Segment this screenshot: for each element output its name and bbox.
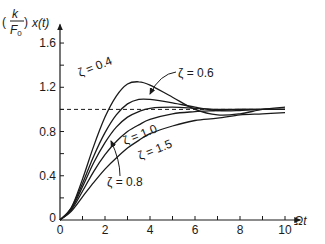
y-tick-label: 0.4 [39, 169, 56, 183]
x-axis-label: Ωt [294, 214, 307, 228]
series-annotation: ζ = 0.4 [76, 53, 115, 79]
y-label-denominator: F0 [10, 23, 22, 38]
x-tick-label: 0 [57, 223, 64, 237]
series-annotation: ζ = 0.8 [107, 175, 143, 189]
series-annotation: ζ = 0.6 [178, 66, 214, 80]
y-tick-label: 0.8 [39, 125, 56, 139]
x-tick-label: 6 [192, 223, 199, 237]
annotation-arrow [150, 72, 176, 94]
axes [60, 24, 300, 220]
y-tick-label: 1.6 [39, 36, 56, 50]
series-group [60, 82, 285, 220]
y-axis-label: ( k F0 ) x(t) [2, 7, 49, 38]
y-tick-label: 0 [49, 211, 56, 225]
x-tick-label: 10 [278, 223, 292, 237]
y-tick-label: 1.2 [39, 80, 56, 94]
series-line-1-5 [60, 113, 285, 220]
y-label-paren-open: ( [2, 15, 6, 29]
x-tick-label: 4 [147, 223, 154, 237]
x-tick-label: 2 [102, 223, 109, 237]
step-response-chart: ( k F0 ) x(t) 024681000.40.81.21.6 ζ = 0… [0, 0, 325, 244]
series-line-0-8 [60, 107, 285, 220]
x-tick-label: 8 [237, 223, 244, 237]
y-label-paren-close: ) [24, 15, 28, 29]
y-label-rest: x(t) [31, 16, 49, 30]
y-label-numerator: k [12, 7, 19, 21]
series-line-0-6 [60, 99, 285, 220]
